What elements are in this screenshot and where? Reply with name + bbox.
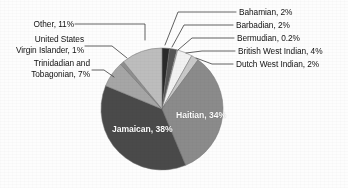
label-other-text: Other, 11% [34, 19, 74, 29]
label-bahamian-text: Bahamian, 2% [239, 7, 292, 17]
label-barbadian-text: Barbadian, 2% [236, 20, 290, 30]
label-british-west-indian: British West Indian, 4% [238, 46, 322, 56]
label-haitian-text: Haitian, 34% [176, 110, 226, 120]
label-jamaican-text: Jamaican, 38% [112, 124, 173, 134]
label-british-west-indian-text: British West Indian, 4% [238, 46, 322, 56]
label-other: Other, 11% [0, 19, 74, 29]
leader-line-bermudian [178, 38, 234, 50]
label-usvi-line1: United States [0, 34, 84, 45]
label-dutch-west-indian-text: Dutch West Indian, 2% [236, 59, 319, 69]
label-haitian: Haitian, 34% [176, 110, 226, 120]
label-trinidadian-and-tobagonian: Trinidadian and Tobagonian, 7% [0, 58, 90, 79]
label-bermudian-text: Bermudian, 0.2% [237, 33, 300, 43]
label-trinidad-line2: Tobagonian, 7% [0, 69, 90, 80]
label-trinidad-line1: Trinidadian and [0, 58, 90, 69]
label-usvi-line2: Virgin Islander, 1% [0, 45, 84, 56]
label-jamaican: Jamaican, 38% [112, 124, 173, 134]
leader-line-other [75, 24, 145, 40]
pie-slices [101, 48, 223, 170]
leader-line-barbadian [172, 25, 233, 47]
label-united-states-virgin-islander: United States Virgin Islander, 1% [0, 34, 84, 55]
pie-chart-figure: Other, 11% United States Virgin Islander… [0, 0, 348, 188]
leader-line-united-states-virgin-islander [85, 46, 127, 58]
leader-line-british-west-indian [186, 51, 235, 53]
label-bahamian: Bahamian, 2% [239, 7, 292, 17]
label-barbadian: Barbadian, 2% [236, 20, 290, 30]
label-bermudian: Bermudian, 0.2% [237, 33, 300, 43]
label-dutch-west-indian: Dutch West Indian, 2% [236, 59, 319, 69]
